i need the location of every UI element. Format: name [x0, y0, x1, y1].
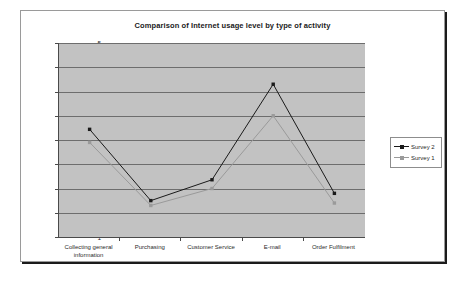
- legend-label: Survey 2: [411, 144, 435, 150]
- x-axis-tick-mark: [119, 238, 120, 241]
- data-point-marker: [333, 192, 336, 195]
- chart-title: Comparison of Internet usage level by ty…: [21, 21, 444, 30]
- x-axis-tick-mark: [242, 238, 243, 241]
- data-point-marker: [333, 201, 336, 204]
- x-axis-tick-label: Order Fulfilment: [293, 243, 373, 251]
- legend-marker-icon: [394, 143, 409, 150]
- data-point-marker: [272, 83, 275, 86]
- data-point-marker: [210, 187, 213, 190]
- series-line: [90, 84, 335, 200]
- legend-label: Survey 1: [411, 155, 435, 161]
- x-axis-tick-mark: [303, 238, 304, 241]
- data-point-marker: [88, 141, 91, 144]
- x-axis-tick-mark: [180, 238, 181, 241]
- series-lines: [59, 43, 365, 237]
- series-line: [90, 116, 335, 206]
- chart-legend: Survey 2 Survey 1: [390, 137, 442, 168]
- legend-item-survey-2: Survey 2: [394, 141, 439, 152]
- chart-frame: Comparison of Internet usage level by ty…: [20, 10, 445, 262]
- data-point-marker: [210, 178, 213, 181]
- data-point-marker: [149, 204, 152, 207]
- legend-marker-icon: [394, 154, 409, 161]
- data-point-marker: [88, 128, 91, 131]
- plot-area: [58, 43, 365, 238]
- legend-item-survey-1: Survey 1: [394, 152, 439, 163]
- data-point-marker: [149, 199, 152, 202]
- data-point-marker: [272, 114, 275, 117]
